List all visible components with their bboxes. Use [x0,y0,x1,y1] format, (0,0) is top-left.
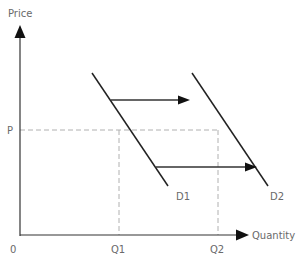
upper-shift-arrow [111,96,190,105]
arrowhead-icon [245,163,257,172]
x-axis-arrow-icon [236,230,249,241]
price-label: P [7,125,13,136]
x-axis-label: Quantity [252,230,295,241]
d2-label: D2 [270,191,284,202]
y-axis-arrow-icon [15,25,26,38]
demand-curve-d2 [192,73,268,186]
d1-label: D1 [176,191,190,202]
lower-shift-arrow [156,163,257,172]
q2-label: Q2 [210,244,224,255]
origin-label: 0 [10,244,16,255]
arrowhead-icon [178,96,190,105]
x-axis [20,230,249,241]
q1-label: Q1 [111,244,125,255]
y-axis-label: Price [8,8,32,19]
demand-shift-diagram: Price Quantity 0 P Q1 Q2 D1 D2 [0,0,297,263]
